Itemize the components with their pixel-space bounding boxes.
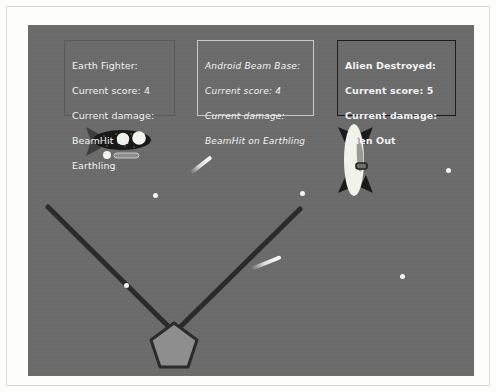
star-icon [124, 283, 129, 288]
hud-earth-fighter-title: Earth Fighter: [72, 60, 167, 73]
hud-android-beam-title: Android Beam Base: [205, 60, 306, 73]
hud-panel-earth-fighter: Earth Fighter: Current score: 4 Current … [64, 40, 175, 116]
hud-alien-destroyed-damage-line-1: Alien Out [345, 135, 448, 148]
right-beam-line [173, 209, 300, 334]
alien-port-icon [356, 163, 367, 169]
hud-earth-fighter-score: Current score: 4 [72, 85, 167, 98]
star-icon [400, 274, 405, 279]
hud-earth-fighter-damage-line-2: Earthling [72, 160, 167, 173]
hud-alien-destroyed-damage-label: Current damage: [345, 110, 448, 123]
star-icon [153, 193, 158, 198]
hud-earth-fighter-damage-label: Current damage: [72, 110, 167, 123]
hud-android-beam-damage-line-1: BeamHit on Earthling [205, 135, 306, 148]
star-icon [446, 168, 451, 173]
hud-android-beam-damage-label: Current damage: [205, 110, 306, 123]
star-icon [300, 191, 305, 196]
hud-panel-alien-destroyed: Alien Destroyed: Current score: 5 Curren… [337, 40, 456, 116]
page-frame: Earth Fighter: Current score: 4 Current … [6, 6, 490, 386]
game-canvas[interactable]: Earth Fighter: Current score: 4 Current … [28, 25, 474, 376]
hud-android-beam-score: Current score: 4 [205, 85, 306, 98]
hud-alien-destroyed-title: Alien Destroyed: [345, 60, 448, 73]
hud-alien-destroyed-score: Current score: 5 [345, 85, 448, 98]
left-beam-line [48, 207, 175, 333]
hud-panel-android-beam-base: Android Beam Base: Current score: 4 Curr… [197, 40, 314, 116]
hud-earth-fighter-damage-line-1: BeamHit on [72, 135, 167, 148]
android-beam-base-pentagon[interactable] [151, 323, 197, 367]
game-window: Earth Fighter: Current score: 4 Current … [0, 0, 496, 392]
